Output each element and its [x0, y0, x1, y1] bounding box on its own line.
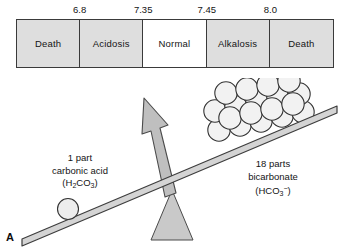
- ph-tick-7.45: 7.45: [198, 4, 217, 15]
- right-amount: 18 parts: [218, 158, 328, 171]
- ph-cell-death-high: Death: [270, 20, 333, 67]
- bicarbonate-circle-stack: [204, 78, 314, 141]
- ph-tick-labels: 6.8 7.35 7.45 8.0: [16, 4, 334, 18]
- ph-scale-bar: Death Acidosis Normal Alkalosis Death: [16, 19, 334, 68]
- carbonic-acid-circle: [58, 199, 79, 220]
- left-side-label: 1 part carbonic acid (H2CO3): [26, 152, 134, 193]
- ph-tick-7.35: 7.35: [134, 4, 153, 15]
- right-name: bicarbonate: [218, 171, 328, 184]
- panel-letter: A: [6, 231, 14, 243]
- ph-cell-normal: Normal: [143, 20, 206, 67]
- right-formula: (HCO3−): [218, 183, 328, 201]
- figure-acid-base-balance: 6.8 7.35 7.45 8.0 Death Acidosis Normal …: [0, 0, 349, 251]
- ph-cell-acidosis: Acidosis: [80, 20, 143, 67]
- fulcrum-triangle: [151, 190, 193, 240]
- right-side-label: 18 parts bicarbonate (HCO3−): [218, 158, 328, 201]
- ph-cell-alkalosis: Alkalosis: [207, 20, 270, 67]
- left-amount: 1 part: [26, 152, 134, 165]
- ph-cell-death-low: Death: [17, 20, 80, 67]
- ph-tick-6.8: 6.8: [73, 4, 86, 15]
- left-formula: (H2CO3): [26, 177, 134, 193]
- left-name: carbonic acid: [26, 165, 134, 178]
- ph-tick-8.0: 8.0: [264, 4, 277, 15]
